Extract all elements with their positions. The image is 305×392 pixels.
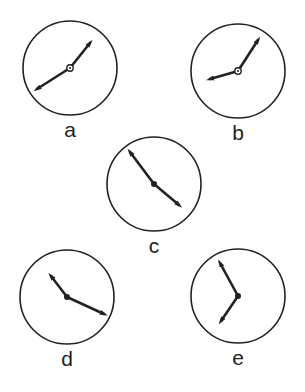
clock-hub-dot xyxy=(69,67,71,69)
clock-b: b xyxy=(191,24,285,144)
clock-hand xyxy=(220,263,238,296)
clock-hand xyxy=(70,43,90,68)
clock-hand xyxy=(67,297,104,314)
clock-label: a xyxy=(64,118,76,141)
clock-d: d xyxy=(20,250,114,370)
clock-hand xyxy=(154,184,179,205)
clock-a: a xyxy=(23,21,117,141)
clock-hub-dot xyxy=(237,70,239,72)
clock-label: c xyxy=(149,234,160,257)
clock-hand xyxy=(238,40,258,71)
clock-hand xyxy=(130,152,154,184)
clock-hand xyxy=(51,276,67,297)
clock-e: e xyxy=(191,249,285,369)
clock-label: e xyxy=(232,346,244,369)
clock-hub xyxy=(151,181,157,187)
clock-c: c xyxy=(107,137,201,257)
clock-hand xyxy=(210,71,238,79)
clock-hub xyxy=(64,294,70,300)
clock-hand xyxy=(221,296,238,321)
clock-diagram: abcde xyxy=(0,0,305,392)
clock-hub xyxy=(235,293,241,299)
clock-label: d xyxy=(61,347,73,370)
clock-label: b xyxy=(232,121,244,144)
clock-hand xyxy=(37,68,70,89)
